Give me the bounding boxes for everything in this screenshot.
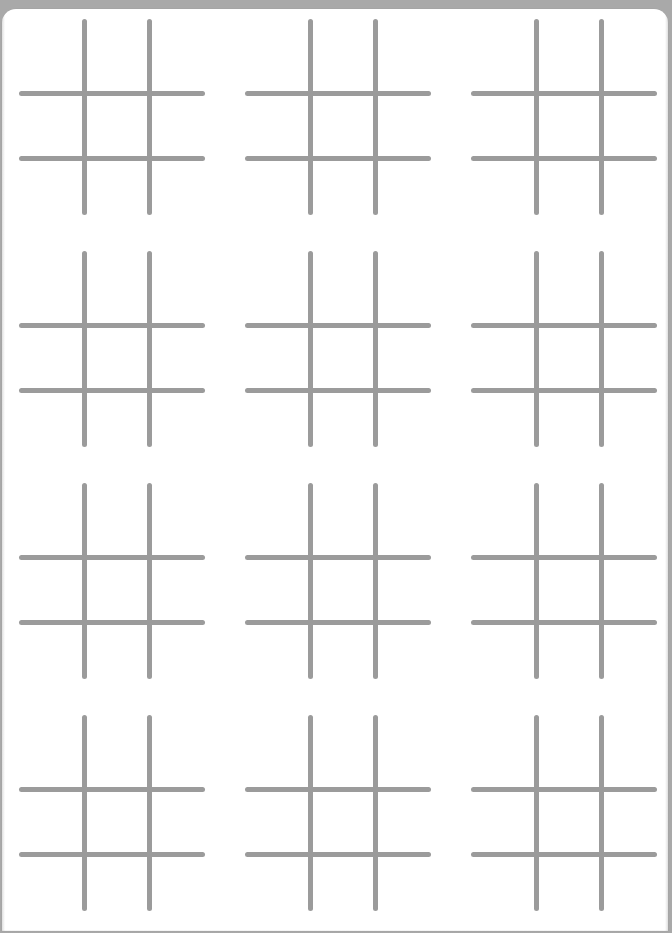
- board-cell[interactable]: [245, 158, 310, 223]
- board-cell[interactable]: [19, 854, 84, 919]
- board-cell[interactable]: [149, 260, 214, 325]
- tic-tac-toe-board[interactable]: [471, 715, 657, 911]
- board-cell[interactable]: [601, 390, 666, 455]
- board-cell[interactable]: [471, 28, 536, 93]
- tic-tac-toe-board[interactable]: [471, 251, 657, 447]
- board-cell[interactable]: [601, 28, 666, 93]
- board-cell[interactable]: [84, 789, 149, 854]
- board-cell[interactable]: [149, 158, 214, 223]
- board-cell[interactable]: [310, 325, 375, 390]
- board-cell[interactable]: [19, 622, 84, 687]
- board-cell[interactable]: [375, 492, 440, 557]
- board-cell[interactable]: [375, 854, 440, 919]
- board-cell[interactable]: [84, 325, 149, 390]
- board-cell[interactable]: [310, 390, 375, 455]
- board-cell[interactable]: [84, 158, 149, 223]
- board-cell[interactable]: [19, 390, 84, 455]
- board-cell[interactable]: [84, 28, 149, 93]
- board-cell[interactable]: [536, 325, 601, 390]
- board-cell[interactable]: [149, 28, 214, 93]
- board-cell[interactable]: [536, 789, 601, 854]
- board-cell[interactable]: [375, 28, 440, 93]
- board-cell[interactable]: [19, 93, 84, 158]
- board-cell[interactable]: [149, 492, 214, 557]
- board-cell[interactable]: [310, 492, 375, 557]
- board-cell[interactable]: [245, 325, 310, 390]
- board-cell[interactable]: [471, 158, 536, 223]
- board-cell[interactable]: [19, 325, 84, 390]
- board-cell[interactable]: [471, 789, 536, 854]
- board-cell[interactable]: [375, 557, 440, 622]
- board-cell[interactable]: [84, 854, 149, 919]
- board-cell[interactable]: [471, 325, 536, 390]
- board-cell[interactable]: [310, 789, 375, 854]
- board-cell[interactable]: [310, 622, 375, 687]
- tic-tac-toe-board[interactable]: [19, 19, 205, 215]
- board-cell[interactable]: [536, 492, 601, 557]
- board-cell[interactable]: [19, 28, 84, 93]
- board-cell[interactable]: [601, 325, 666, 390]
- board-cell[interactable]: [471, 492, 536, 557]
- board-cell[interactable]: [601, 93, 666, 158]
- board-cell[interactable]: [245, 390, 310, 455]
- board-cell[interactable]: [375, 390, 440, 455]
- board-cell[interactable]: [601, 158, 666, 223]
- board-cell[interactable]: [601, 260, 666, 325]
- board-cell[interactable]: [471, 390, 536, 455]
- board-cell[interactable]: [375, 158, 440, 223]
- board-cell[interactable]: [149, 557, 214, 622]
- board-cell[interactable]: [245, 492, 310, 557]
- board-cell[interactable]: [601, 724, 666, 789]
- board-cell[interactable]: [245, 724, 310, 789]
- board-cell[interactable]: [84, 260, 149, 325]
- board-cell[interactable]: [149, 622, 214, 687]
- board-cell[interactable]: [536, 724, 601, 789]
- board-cell[interactable]: [84, 492, 149, 557]
- tic-tac-toe-board[interactable]: [245, 19, 431, 215]
- board-cell[interactable]: [536, 854, 601, 919]
- board-cell[interactable]: [245, 557, 310, 622]
- tic-tac-toe-board[interactable]: [19, 715, 205, 911]
- board-cell[interactable]: [536, 158, 601, 223]
- board-cell[interactable]: [149, 724, 214, 789]
- board-cell[interactable]: [471, 724, 536, 789]
- board-cell[interactable]: [375, 93, 440, 158]
- board-cell[interactable]: [245, 260, 310, 325]
- board-cell[interactable]: [84, 93, 149, 158]
- board-cell[interactable]: [310, 557, 375, 622]
- board-cell[interactable]: [536, 622, 601, 687]
- board-cell[interactable]: [310, 158, 375, 223]
- board-cell[interactable]: [19, 260, 84, 325]
- board-cell[interactable]: [536, 93, 601, 158]
- board-cell[interactable]: [245, 789, 310, 854]
- board-cell[interactable]: [536, 390, 601, 455]
- board-cell[interactable]: [375, 260, 440, 325]
- board-cell[interactable]: [245, 93, 310, 158]
- tic-tac-toe-board[interactable]: [471, 483, 657, 679]
- board-cell[interactable]: [149, 789, 214, 854]
- board-cell[interactable]: [19, 557, 84, 622]
- tic-tac-toe-board[interactable]: [245, 483, 431, 679]
- board-cell[interactable]: [84, 724, 149, 789]
- board-cell[interactable]: [245, 622, 310, 687]
- board-cell[interactable]: [375, 325, 440, 390]
- board-cell[interactable]: [536, 557, 601, 622]
- board-cell[interactable]: [149, 93, 214, 158]
- tic-tac-toe-board[interactable]: [245, 251, 431, 447]
- tic-tac-toe-board[interactable]: [245, 715, 431, 911]
- board-cell[interactable]: [84, 390, 149, 455]
- board-cell[interactable]: [19, 789, 84, 854]
- board-cell[interactable]: [84, 557, 149, 622]
- board-cell[interactable]: [84, 622, 149, 687]
- board-cell[interactable]: [536, 260, 601, 325]
- board-cell[interactable]: [149, 325, 214, 390]
- board-cell[interactable]: [601, 557, 666, 622]
- board-cell[interactable]: [310, 260, 375, 325]
- board-cell[interactable]: [601, 492, 666, 557]
- board-cell[interactable]: [310, 854, 375, 919]
- board-cell[interactable]: [471, 557, 536, 622]
- board-cell[interactable]: [601, 622, 666, 687]
- tic-tac-toe-board[interactable]: [19, 251, 205, 447]
- board-cell[interactable]: [310, 28, 375, 93]
- tic-tac-toe-board[interactable]: [471, 19, 657, 215]
